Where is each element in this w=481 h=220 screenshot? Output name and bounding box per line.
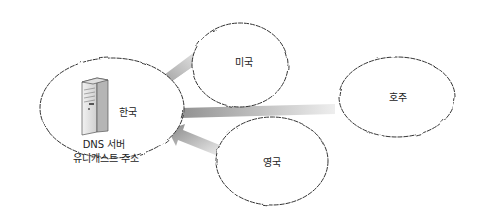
uk-label: 영국	[263, 156, 281, 170]
unicast-address-label: 유니캐스트 주소	[73, 152, 139, 166]
dns-server-label: DNS 서버	[83, 138, 126, 152]
korea-label: 한국	[119, 106, 137, 120]
australia-label: 호주	[389, 91, 407, 105]
server-icon	[82, 78, 108, 135]
network-diagram	[0, 0, 481, 220]
usa-label: 미국	[235, 56, 253, 70]
